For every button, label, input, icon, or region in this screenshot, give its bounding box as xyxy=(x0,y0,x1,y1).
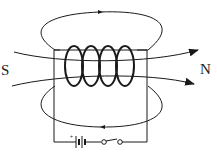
battery-icon: + xyxy=(70,133,101,148)
switch-icon xyxy=(102,139,123,144)
south-pole-label: S xyxy=(1,62,9,78)
lower-field-loop xyxy=(41,86,162,129)
solenoid-coil xyxy=(65,46,134,86)
north-pole-label: N xyxy=(200,61,211,77)
upper-field-loop xyxy=(41,10,162,50)
solenoid-diagram: + S N xyxy=(0,0,217,156)
through-field-lines xyxy=(12,50,198,86)
field-direction-arrow-icon xyxy=(98,10,103,14)
field-direction-arrow-icon xyxy=(100,125,105,129)
svg-text:+: + xyxy=(70,133,73,139)
